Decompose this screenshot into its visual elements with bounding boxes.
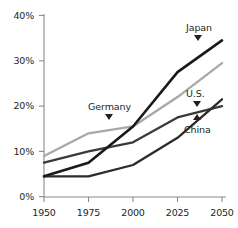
y-tick-label-20: 20% xyxy=(4,100,34,111)
series-label-japan: Japan xyxy=(186,22,212,33)
line-chart: 40% 30% 20% 10% 0% 1950 1975 2000 2025 2… xyxy=(0,0,238,228)
y-axis-ticks xyxy=(39,16,44,197)
x-axis-ticks xyxy=(44,197,222,202)
x-tick-label-2050: 2050 xyxy=(202,207,238,218)
x-tick-label-1975: 1975 xyxy=(69,207,109,218)
y-tick-label-10: 10% xyxy=(4,146,34,157)
plot-area xyxy=(0,0,238,228)
series-label-china: China xyxy=(184,124,211,135)
y-tick-label-30: 30% xyxy=(4,55,34,66)
x-tick-label-1950: 1950 xyxy=(24,207,64,218)
series-label-germany: Germany xyxy=(88,101,131,112)
x-tick-label-2000: 2000 xyxy=(113,207,153,218)
triangle-down-icon-japan xyxy=(194,35,202,41)
triangle-down-icon-us xyxy=(193,101,201,107)
y-tick-label-0: 0% xyxy=(4,191,34,202)
series-line-china xyxy=(44,99,222,176)
x-tick-label-2025: 2025 xyxy=(158,207,198,218)
series-label-us: U.S. xyxy=(186,88,205,99)
triangle-down-icon-germany xyxy=(105,114,113,120)
triangle-up-icon-china xyxy=(193,114,201,120)
y-tick-label-40: 40% xyxy=(4,10,34,21)
